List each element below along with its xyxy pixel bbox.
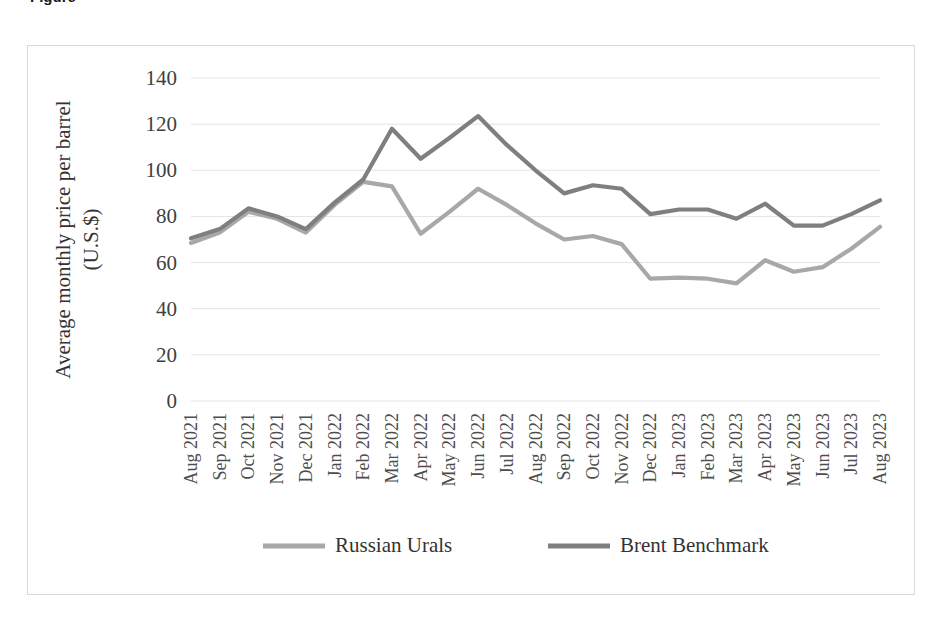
x-axis-tick-labels: Aug 2021Sep 2021Oct 2021Nov 2021Dec 2021… xyxy=(181,413,890,487)
y-axis-title: Average monthly price per barrel(U.S.$) xyxy=(51,100,103,378)
x-tick-label: Nov 2021 xyxy=(267,413,287,485)
x-tick-label: Mar 2022 xyxy=(382,413,402,484)
x-tick-label: May 2023 xyxy=(784,413,804,487)
x-tick-label: Apr 2022 xyxy=(411,413,431,482)
data-series-group xyxy=(191,116,880,283)
x-tick-label: Feb 2023 xyxy=(698,413,718,481)
x-tick-label: Aug 2023 xyxy=(870,413,890,485)
y-axis-tick-labels: 020406080100120140 xyxy=(146,66,178,413)
y-tick-label: 0 xyxy=(167,389,178,413)
x-tick-label: Sep 2022 xyxy=(554,413,574,481)
y-tick-label: 140 xyxy=(146,66,178,90)
x-tick-label: Aug 2021 xyxy=(181,413,201,485)
line-chart: 020406080100120140 Average monthly price… xyxy=(28,46,914,594)
y-tick-label: 120 xyxy=(146,112,178,136)
x-tick-label: Jun 2023 xyxy=(813,413,833,479)
x-tick-label: Dec 2021 xyxy=(296,413,316,482)
x-tick-label: Jul 2022 xyxy=(497,413,517,475)
y-tick-label: 100 xyxy=(146,158,178,182)
x-tick-label: Nov 2022 xyxy=(612,413,632,485)
y-tick-label: 20 xyxy=(156,343,177,367)
x-tick-label: Dec 2022 xyxy=(640,413,660,482)
y-tick-label: 40 xyxy=(156,297,177,321)
x-tick-label: Jan 2022 xyxy=(325,413,345,478)
gridlines-group xyxy=(191,78,880,401)
x-tick-label: Jul 2023 xyxy=(841,413,861,475)
y-tick-label: 80 xyxy=(156,204,177,228)
x-tick-label: Feb 2022 xyxy=(353,413,373,481)
chart-container: 020406080100120140 Average monthly price… xyxy=(27,45,915,595)
legend-label-brent-benchmark: Brent Benchmark xyxy=(620,533,769,557)
y-tick-label: 60 xyxy=(156,251,177,275)
x-tick-label: Oct 2022 xyxy=(583,413,603,480)
chart-legend: Russian UralsBrent Benchmark xyxy=(263,533,769,557)
x-tick-label: Aug 2022 xyxy=(526,413,546,485)
x-tick-label: Sep 2021 xyxy=(210,413,230,481)
series-line-russian-urals xyxy=(191,182,880,284)
x-tick-label: Jun 2022 xyxy=(468,413,488,479)
x-tick-label: May 2022 xyxy=(439,413,459,487)
figure-caption-clipped: Figure xyxy=(0,0,952,14)
legend-label-russian-urals: Russian Urals xyxy=(335,533,452,557)
x-tick-label: Mar 2023 xyxy=(726,413,746,484)
series-line-brent-benchmark xyxy=(191,116,880,238)
y-axis-title-line-1: Average monthly price per barrel xyxy=(51,100,75,378)
x-tick-label: Jan 2023 xyxy=(669,413,689,478)
x-tick-label: Oct 2021 xyxy=(238,413,258,480)
figure-caption-text: Figure xyxy=(30,0,76,5)
y-axis-title-line-2: (U.S.$) xyxy=(79,209,103,271)
x-tick-label: Apr 2023 xyxy=(755,413,775,482)
